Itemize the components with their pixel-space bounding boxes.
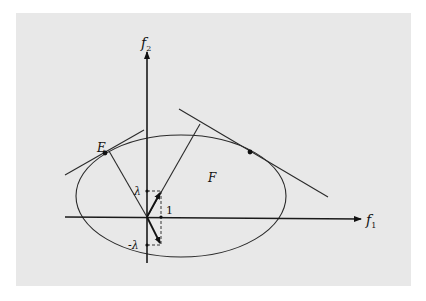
label-neg-lambda: -λ: [128, 239, 139, 252]
point-right-tangency: [248, 150, 253, 155]
tick-lambda: [145, 189, 148, 192]
label-F: F: [207, 171, 217, 185]
tick-one: [159, 215, 162, 218]
tick-neg-lambda: [145, 243, 148, 246]
label-lambda: λ: [133, 185, 141, 198]
figure-panel: [16, 13, 411, 286]
label-E: E: [96, 141, 106, 155]
label-one: 1: [166, 204, 173, 217]
ellipse-tangent-diagram: f2 f1 E F λ -λ 1: [0, 0, 426, 301]
